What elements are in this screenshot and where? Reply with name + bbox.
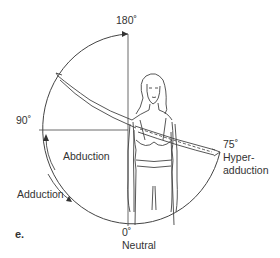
panel-label: e.	[15, 228, 24, 240]
adduction-arrowhead-icon	[66, 196, 72, 202]
shoulder-abduction-diagram	[0, 0, 280, 258]
hyperadduction-label-line1: Hyper-	[223, 151, 255, 163]
range-of-motion-arc	[43, 34, 220, 224]
neutral-label: Neutral	[122, 239, 156, 251]
abduction-arrow	[46, 137, 55, 170]
woman-figure	[56, 73, 220, 225]
angle-label-75: 75˚	[223, 138, 238, 150]
adduction-label: Adduction	[17, 188, 64, 200]
abduction-label: Abduction	[63, 150, 110, 162]
angle-label-180: 180˚	[116, 14, 137, 26]
arrowhead-180-icon	[122, 31, 128, 37]
angle-label-0: 0˚	[122, 226, 131, 238]
angle-label-90: 90˚	[16, 114, 31, 126]
abduction-arrowhead-icon	[43, 134, 49, 141]
hyperadduction-label-line2: adduction	[223, 164, 269, 176]
